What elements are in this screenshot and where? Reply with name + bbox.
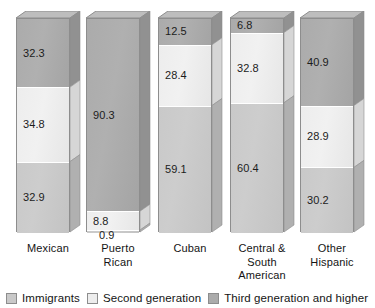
bar-front-face: 90.38.80.9 [86, 18, 140, 232]
stacked-bar-chart: 32.334.832.990.38.80.912.528.459.16.832.… [0, 0, 375, 240]
bar-top-face [86, 11, 140, 18]
bar-segment-immigrants[interactable]: 59.1 [159, 107, 211, 233]
legend-item-second-generation[interactable]: Second generation [87, 292, 201, 304]
bar-mexican[interactable]: 32.334.832.9 [16, 18, 70, 232]
bar-segment-value-label: 40.9 [301, 57, 329, 68]
category-axis-labels: MexicanPuertoRicanCubanCentral &SouthAme… [0, 240, 375, 284]
category-label-other-hispanic: OtherHispanic [289, 242, 375, 269]
legend-swatch-immigrants [6, 293, 17, 304]
bar-segment-value-label: 28.9 [301, 131, 329, 142]
bar-top-face [300, 11, 354, 18]
bar-segment-value-label: 59.1 [159, 164, 187, 175]
bar-segment-second-generation[interactable]: 32.8 [231, 34, 283, 104]
bar-segment-value-label: 8.8 [87, 216, 109, 227]
bar-top-face [16, 11, 70, 18]
bar-segment-immigrants[interactable]: 30.2 [301, 168, 353, 233]
bar-segment-second-generation[interactable]: 34.8 [17, 88, 69, 162]
bar-segment-value-label: 34.8 [17, 119, 45, 130]
legend-swatch-second-generation [87, 293, 98, 304]
bar-front-face: 12.528.459.1 [158, 18, 212, 232]
bar-segment-value-label: 32.8 [231, 63, 259, 74]
category-label-line: Hispanic [289, 256, 375, 270]
bar-segment-third-generation[interactable]: 90.3 [87, 19, 139, 212]
bar-segment-value-label: 32.3 [17, 48, 45, 59]
bar-segment-third-generation[interactable]: 40.9 [301, 19, 353, 107]
bar-front-face: 40.928.930.2 [300, 18, 354, 232]
legend-item-third-generation-and-higher[interactable]: Third generation and higher [208, 292, 368, 304]
bar-side-face [354, 11, 364, 232]
bar-segment-immigrants[interactable]: 32.9 [17, 163, 69, 233]
legend-item-label: Third generation and higher [224, 292, 368, 304]
bar-segment-value-label: 6.8 [231, 20, 253, 31]
bar-segment-value-label: 32.9 [17, 192, 45, 203]
chart-legend: ImmigrantsSecond generationThird generat… [0, 288, 375, 308]
bar-segment-third-generation[interactable]: 32.3 [17, 19, 69, 88]
bar-segment-value-label: 90.3 [87, 110, 115, 121]
bar-segment-third-generation[interactable]: 6.8 [231, 19, 283, 34]
bar-side-face [284, 11, 294, 232]
bar-segment-value-label: 28.4 [159, 70, 187, 81]
legend-swatch-third-generation [208, 293, 219, 304]
bar-segment-second-generation[interactable]: 28.9 [301, 107, 353, 169]
bar-segment-immigrants[interactable]: 0.9 [87, 231, 139, 233]
bar-side-face [212, 11, 222, 232]
bar-puerto-rican[interactable]: 90.38.80.9 [86, 18, 140, 232]
bar-central-south-american[interactable]: 6.832.860.4 [230, 18, 284, 232]
bar-front-face: 6.832.860.4 [230, 18, 284, 232]
bar-side-face [70, 11, 80, 232]
bar-top-face [158, 11, 212, 18]
bar-segment-second-generation[interactable]: 28.4 [159, 46, 211, 107]
bar-cuban[interactable]: 12.528.459.1 [158, 18, 212, 232]
bar-segment-immigrants[interactable]: 60.4 [231, 104, 283, 233]
legend-item-immigrants[interactable]: Immigrants [6, 292, 80, 304]
bar-top-face [230, 11, 284, 18]
legend-item-label: Second generation [103, 292, 201, 304]
category-label-line: American [219, 269, 305, 283]
bar-segment-value-label: 60.4 [231, 163, 259, 174]
category-label-line: Other [289, 242, 375, 256]
bar-segment-value-label: 12.5 [159, 26, 187, 37]
legend-item-label: Immigrants [22, 292, 80, 304]
bar-segment-third-generation[interactable]: 12.5 [159, 19, 211, 46]
category-label-line: Rican [75, 256, 161, 270]
bar-other-hispanic[interactable]: 40.928.930.2 [300, 18, 354, 232]
bar-segment-value-label: 30.2 [301, 195, 329, 206]
bar-front-face: 32.334.832.9 [16, 18, 70, 232]
bar-side-face [140, 11, 150, 232]
